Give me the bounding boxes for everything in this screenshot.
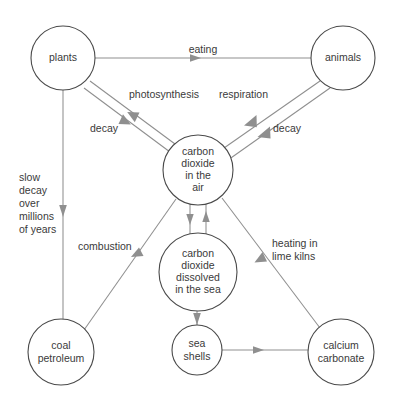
node-carbon-dioxide-dissolved-in-the-sea[interactable]: carbon dioxide dissolved in the sea xyxy=(159,233,237,311)
node-calcium-carbonate[interactable]: calcium carbonate xyxy=(308,319,374,385)
diagram-canvas: plants animals carbon dioxide in the air… xyxy=(0,0,394,406)
edge-lime-kilns-arrowhead xyxy=(255,252,268,263)
edge-eating-arrowhead xyxy=(190,54,201,62)
edge-releasing-arrowhead xyxy=(202,211,209,222)
edge-lime-kilns xyxy=(222,198,320,328)
node-carbon-dioxide-in-the-air[interactable]: carbon dioxide in the air xyxy=(163,135,233,205)
edge-dissolving xyxy=(186,204,193,234)
edge-slow-decay-arrowhead xyxy=(59,205,67,217)
edge-label-slow-decay-line2: decay xyxy=(19,184,48,196)
edge-label-lime-kilns: heating in lime kilns xyxy=(272,237,318,262)
carbon-cycle-diagram: plants animals carbon dioxide in the air… xyxy=(0,0,394,406)
edge-label-decay-left: decay xyxy=(90,122,119,134)
edge-photosynthesis-arrowhead xyxy=(127,112,139,122)
node-sea-shells-label-line1: sea xyxy=(189,337,206,349)
edge-dissolving-arrowhead xyxy=(186,214,193,225)
edge-label-decay-right: decay xyxy=(273,122,302,134)
edge-label-eating: eating xyxy=(189,43,218,55)
node-coal-petroleum-label-line1: coal xyxy=(51,339,70,351)
node-co2-air-label-line3: in the xyxy=(185,169,211,181)
edge-label-slow-decay: slow decay over millions of years xyxy=(19,171,56,235)
edge-lime-kilns-line xyxy=(222,198,320,328)
edge-decay-plants-arrowhead xyxy=(119,114,131,124)
edge-label-slow-decay-line1: slow xyxy=(19,171,40,183)
edge-respiration-arrowhead xyxy=(244,115,257,127)
node-co2-air-label-line2: dioxide xyxy=(181,157,214,169)
node-animals-label: animals xyxy=(325,51,361,63)
edge-eating xyxy=(95,54,311,62)
edge-label-slow-decay-line4: millions xyxy=(19,210,54,222)
edge-label-respiration: respiration xyxy=(219,88,268,100)
edge-label-combustion: combustion xyxy=(78,240,132,252)
node-coal-petroleum[interactable]: coal petroleum xyxy=(28,319,94,385)
node-animals[interactable]: animals xyxy=(311,26,375,90)
edge-combustion-arrowhead xyxy=(131,248,144,258)
edge-label-lime-kilns-line2: lime kilns xyxy=(272,250,315,262)
edge-label-photosynthesis: photosynthesis xyxy=(129,88,199,100)
node-co2-sea-label-line2: dioxide xyxy=(181,259,214,271)
edge-label-slow-decay-line3: over xyxy=(19,197,40,209)
node-plants[interactable]: plants xyxy=(31,26,95,90)
node-co2-sea-label-line4: in the sea xyxy=(175,283,221,295)
node-co2-air-label-line1: carbon xyxy=(182,145,214,157)
node-co2-air-label-line4: air xyxy=(192,181,204,193)
node-calcium-carbonate-label-line2: carbonate xyxy=(318,352,365,364)
edge-shell-forming-arrowhead xyxy=(193,313,201,325)
edge-shells-to-carbonate xyxy=(222,346,308,354)
edge-label-slow-decay-line5: of years xyxy=(19,223,56,235)
node-coal-petroleum-label-line2: petroleum xyxy=(38,352,85,364)
edge-shells-to-carbonate-arrowhead xyxy=(253,346,264,354)
node-sea-shells[interactable]: sea shells xyxy=(172,325,222,375)
node-plants-label: plants xyxy=(49,51,77,63)
edge-slow-decay xyxy=(59,90,67,319)
edge-releasing xyxy=(202,204,209,234)
node-sea-shells-label-line2: shells xyxy=(184,350,211,362)
edge-shell-forming xyxy=(193,311,201,325)
node-co2-sea-label-line1: carbon xyxy=(182,247,214,259)
node-co2-sea-label-line3: dissolved xyxy=(176,271,220,283)
node-calcium-carbonate-label-line1: calcium xyxy=(323,339,359,351)
edge-decay-animals-arrowhead xyxy=(258,127,271,139)
edge-label-lime-kilns-line1: heating in xyxy=(272,237,318,249)
